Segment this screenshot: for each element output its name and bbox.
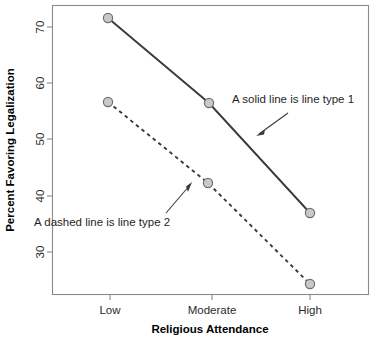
y-axis-title: Percent Favoring Legalization: [4, 68, 16, 232]
y-tick-label: 70: [34, 21, 46, 34]
y-tick-label: 60: [34, 77, 46, 90]
plot-frame: [53, 6, 369, 295]
data-point: [305, 208, 314, 217]
data-point: [203, 178, 212, 187]
x-axis-ticks: [110, 295, 310, 301]
y-tick-label: 40: [34, 190, 46, 203]
y-tick-label: 30: [34, 246, 46, 259]
x-axis-tick-labels: Low Moderate High: [99, 304, 321, 316]
data-point: [103, 97, 112, 106]
dashed-annotation-label: A dashed line is line type 2: [34, 216, 170, 228]
solid-annotation-arrow-icon: [256, 113, 288, 136]
x-tick-label: High: [298, 304, 322, 316]
series-line-type-2-markers: [103, 97, 314, 288]
series-line-type-2: [108, 102, 310, 284]
data-point: [103, 13, 112, 22]
dashed-annotation-arrow-icon: [166, 182, 192, 213]
chart-canvas: 70 60 50 40 30 Low Moderate High Religio…: [0, 0, 371, 337]
x-tick-label: Low: [99, 304, 121, 316]
line-chart: 70 60 50 40 30 Low Moderate High Religio…: [0, 0, 371, 337]
x-axis-title: Religious Attendance: [151, 323, 268, 335]
solid-annotation-label: A solid line is line type 1: [232, 93, 354, 105]
data-point: [305, 279, 314, 288]
x-tick-label: Moderate: [188, 304, 237, 316]
y-tick-label: 50: [34, 133, 46, 146]
data-point: [204, 98, 213, 107]
